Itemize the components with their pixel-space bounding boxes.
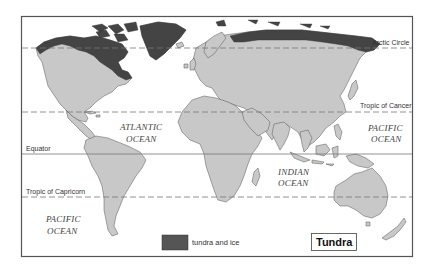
atlantic-ocean-label-1: ATLANTIC bbox=[119, 122, 163, 132]
tasmania bbox=[366, 222, 370, 226]
indian-ocean-label-2: OCEAN bbox=[278, 178, 309, 188]
tropic-of-capricorn-label: Tropic of Capricorn bbox=[26, 188, 85, 196]
legend-label-tundra: tundra and ice bbox=[192, 238, 240, 247]
pacific-ocean-east-label-2: OCEAN bbox=[371, 134, 402, 144]
pacific-ocean-west-label-2: OCEAN bbox=[47, 226, 78, 236]
pacific-ocean-east-label-1: PACIFIC bbox=[367, 123, 404, 133]
equator-label: Equator bbox=[26, 145, 51, 153]
map-title: Tundra bbox=[316, 236, 353, 248]
atlantic-ocean-label-2: OCEAN bbox=[126, 134, 157, 144]
tundra-world-map: Arctic Circle Tropic of Cancer Equator T… bbox=[0, 0, 428, 273]
map-title-box: Tundra bbox=[312, 234, 357, 251]
legend-swatch-tundra bbox=[162, 235, 188, 250]
tropic-of-cancer-label: Tropic of Cancer bbox=[360, 102, 412, 110]
indian-ocean-label-1: INDIAN bbox=[277, 167, 310, 177]
arctic-circle-label: Arctic Circle bbox=[372, 39, 409, 46]
pacific-ocean-west-label-1: PACIFIC bbox=[45, 214, 82, 224]
